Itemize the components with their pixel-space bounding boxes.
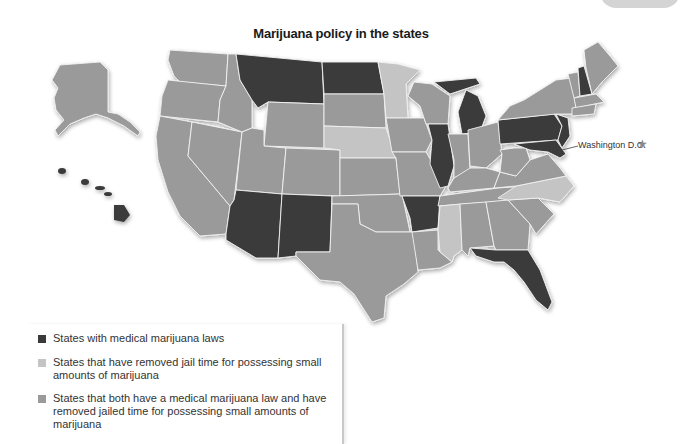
legend-item-medical: States with medical marijuana laws: [38, 332, 333, 345]
state-alaska: [52, 62, 140, 136]
state-south-dakota: [324, 94, 386, 128]
state-arizona: [226, 190, 282, 258]
legend-label: States that have removed jail time for p…: [53, 356, 333, 382]
legend-swatch-dark: [38, 335, 46, 343]
state-ohio: [468, 122, 502, 168]
dc-leader-line: [562, 146, 578, 150]
legend-label: States with medical marijuana laws: [53, 332, 333, 345]
state-north-dakota: [322, 62, 384, 94]
state-new-mexico: [278, 194, 332, 258]
dc-label: Washington D.C.: [578, 140, 646, 150]
legend-item-both: States that both have a medical marijuan…: [38, 392, 333, 431]
star-icon: ★: [637, 137, 648, 151]
state-mississippi: [438, 204, 462, 262]
state-new-york: [498, 78, 576, 120]
legend-label: States that both have a medical marijuan…: [53, 392, 333, 431]
state-kansas: [340, 158, 400, 196]
state-wyoming: [264, 102, 324, 148]
state-florida: [470, 248, 552, 310]
state-hawaii: [58, 168, 130, 222]
legend-swatch-light: [38, 359, 46, 367]
legend-item-decriminalized: States that have removed jail time for p…: [38, 356, 333, 382]
legend-swatch-medium: [38, 395, 46, 403]
state-colorado: [282, 148, 340, 196]
state-oregon: [160, 80, 226, 122]
state-iowa: [386, 118, 432, 152]
map-legend: States with medical marijuana laws State…: [28, 324, 344, 444]
